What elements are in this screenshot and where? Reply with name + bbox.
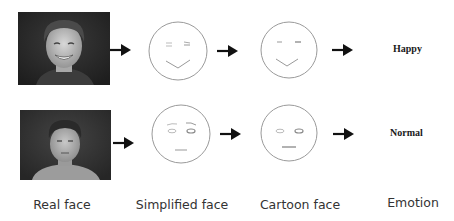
right-arrow-icon [220, 127, 242, 141]
real-face-photo-normal [20, 110, 111, 180]
cartoon-face-happy [258, 19, 320, 81]
caption-simplified-face: Simplified face [136, 197, 229, 212]
right-arrow-icon [217, 44, 239, 58]
real-face-photo-happy [18, 12, 110, 85]
caption-emotion: Emotion [387, 195, 439, 210]
caption-cartoon-face: Cartoon face [260, 197, 340, 212]
right-arrow-icon [332, 43, 354, 57]
right-arrow-icon [113, 136, 135, 150]
emotion-label-happy: Happy [393, 43, 422, 54]
right-arrow-icon [110, 43, 132, 57]
cartoon-face-normal [258, 102, 320, 164]
caption-real-face: Real face [33, 197, 91, 212]
simplified-face-happy [147, 20, 209, 82]
emotion-label-normal: Normal [390, 127, 423, 138]
simplified-face-normal [150, 103, 212, 165]
right-arrow-icon [333, 127, 355, 141]
